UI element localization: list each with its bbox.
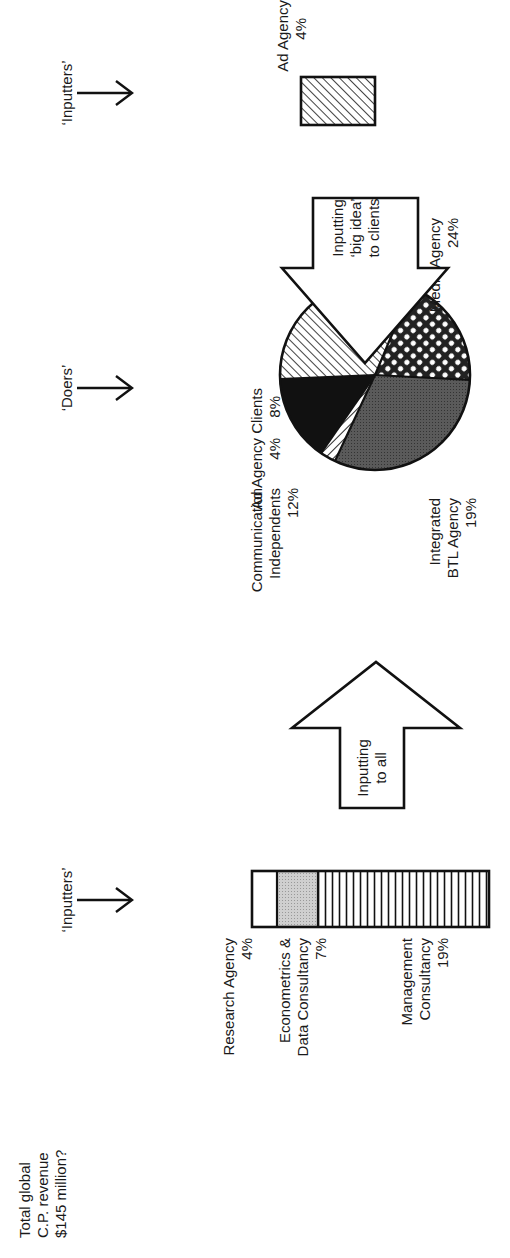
econometrics-label-1: Econometrics & — [276, 938, 293, 1043]
to-all-line-2: to all — [372, 752, 389, 784]
right-inputters-label: ‘Inputters’ — [58, 60, 75, 125]
stacked-bar — [252, 871, 489, 927]
inputting-to-all-arrow: Inputting to all — [292, 662, 460, 808]
ad-agency-box-value: 4% — [292, 18, 309, 40]
research-label: Research Agency — [220, 938, 237, 1056]
clients-label: Clients — [248, 388, 265, 434]
left-inputters-header: ‘Inputters’ — [58, 867, 132, 932]
econometrics-value: 7% — [312, 938, 329, 960]
ad-agency-box-fill — [301, 77, 375, 125]
clients-value: 8% — [266, 396, 283, 418]
comm-indep-value: 12% — [284, 488, 301, 518]
stacked-bar-labels: Research Agency 4% Econometrics & Data C… — [220, 937, 451, 1056]
title-line-1: Total global — [16, 1162, 33, 1238]
down-arrow-icon — [77, 81, 132, 105]
ad-agency-value: 4% — [266, 438, 283, 460]
comm-indep-label-2: Independents — [266, 488, 283, 579]
title-block: Total global C.P. revenue $145 million? — [16, 1150, 69, 1238]
right-inputters-header: ‘Inputters’ — [58, 60, 132, 125]
btl-label-2: BTL Agency — [444, 498, 461, 579]
diagram-canvas: Total global C.P. revenue $145 million? … — [0, 0, 510, 1258]
title-line-2: C.P. revenue — [34, 1152, 51, 1238]
doers-header: ‘Doers’ — [58, 365, 132, 412]
ad-agency-box-label: Ad Agency — [274, 0, 291, 72]
doers-label: ‘Doers’ — [58, 365, 75, 412]
to-all-line-1: Inputting — [354, 739, 371, 797]
down-arrow-icon — [77, 376, 132, 400]
title-line-3: $145 million? — [52, 1150, 69, 1238]
media-agency-label: Media Agency — [426, 218, 443, 313]
research-value: 4% — [238, 938, 255, 960]
down-arrow-icon — [77, 888, 132, 912]
btl-label-1: Integrated — [426, 498, 443, 566]
bar-segment-management — [318, 871, 489, 927]
comm-indep-label-1: Communication — [248, 488, 265, 592]
btl-value: 19% — [462, 498, 479, 528]
big-idea-line-2: ‘big idea’ — [347, 198, 364, 257]
econometrics-label-2: Data Consultancy — [294, 938, 311, 1057]
ad-agency-box: Ad Agency 4% — [274, 0, 375, 125]
management-label-1: Management — [398, 937, 415, 1025]
bar-segment-econometrics — [278, 871, 318, 927]
big-idea-line-3: to clients — [365, 198, 382, 257]
media-agency-value: 24% — [444, 218, 461, 248]
management-value: 19% — [434, 938, 451, 968]
left-inputters-label: ‘Inputters’ — [58, 867, 75, 932]
management-label-2: Consultancy — [416, 938, 433, 1021]
bar-segment-research — [252, 871, 276, 927]
big-idea-line-1: Inputting — [329, 199, 346, 257]
